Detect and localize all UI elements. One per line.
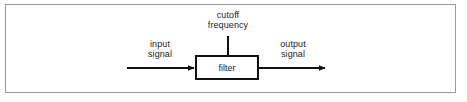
label-cutoff-frequency-line1: cutoff	[188, 10, 268, 20]
label-cutoff-frequency: cutoff frequency	[188, 10, 268, 30]
filter-block: filter	[195, 55, 259, 80]
label-input-signal: input signal	[133, 39, 187, 59]
label-output-signal-line2: signal	[265, 49, 321, 59]
filter-block-label: filter	[218, 63, 235, 73]
label-input-signal-line2: signal	[133, 49, 187, 59]
label-input-signal-line1: input	[133, 39, 187, 49]
figure-root: cutoff frequency input signal output sig…	[0, 0, 467, 102]
label-output-signal-line1: output	[265, 39, 321, 49]
label-cutoff-frequency-line2: frequency	[188, 20, 268, 30]
label-output-signal: output signal	[265, 39, 321, 59]
